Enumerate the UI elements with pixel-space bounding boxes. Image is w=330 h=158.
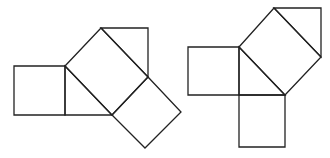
right-figure-left-square [188,47,239,95]
right-figure-rotated-square [239,8,321,95]
left-figure-left-square [14,66,65,115]
left-figure-top-triangle [101,28,148,77]
left-figure-bottom-right-square [112,77,181,148]
right-figure [188,8,321,147]
left-figure-rotated-square [65,28,148,115]
right-figure-bottom-square [239,95,285,147]
right-figure-top-triangle [274,8,321,57]
diagram-canvas [0,0,330,158]
left-figure [14,28,181,148]
